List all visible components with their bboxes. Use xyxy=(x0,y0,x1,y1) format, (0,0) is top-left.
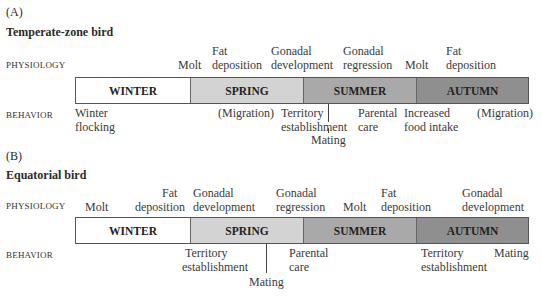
physiology-event: Molt xyxy=(178,44,201,72)
behavior-label: BEHAVIOR xyxy=(6,250,53,260)
physiology-event: Molt xyxy=(343,186,366,214)
behavior-event: Winterflocking xyxy=(75,106,115,134)
panel-letter: (B) xyxy=(6,149,22,164)
behavior-event: Mating xyxy=(249,275,284,289)
season-spring: SPRING xyxy=(190,78,303,103)
season-bar: WINTER SPRING SUMMER AUTUMN xyxy=(75,77,529,104)
behavior-event: Territoryestablishment xyxy=(281,106,347,134)
behavior-label: BEHAVIOR xyxy=(6,110,53,120)
panel-letter: (A) xyxy=(6,5,23,20)
behavior-event: Mating xyxy=(311,133,346,147)
physiology-event: Gonadaldevelopment xyxy=(193,186,255,214)
season-winter: WINTER xyxy=(76,218,190,243)
behavior-event: Parentalcare xyxy=(289,246,328,274)
panel-title: Temperate-zone bird xyxy=(6,25,113,40)
physiology-event: Gonadaldevelopment xyxy=(462,186,524,214)
physiology-event: Fatdeposition xyxy=(212,44,262,72)
season-autumn: AUTUMN xyxy=(416,218,528,243)
physiology-label: PHYSIOLOGY xyxy=(6,201,66,211)
physiology-event: Molt xyxy=(85,186,108,214)
season-bar: WINTER SPRING SUMMER AUTUMN xyxy=(75,217,529,244)
mating-tick xyxy=(266,244,267,273)
behavior-event: Increasedfood intake xyxy=(404,106,458,134)
physiology-event: Fatdeposition xyxy=(381,186,431,214)
behavior-event: Parentalcare xyxy=(358,106,397,134)
season-summer: SUMMER xyxy=(303,218,416,243)
behavior-event: Territoryestablishment xyxy=(421,246,487,274)
mating-tick xyxy=(328,104,329,122)
behavior-event: Territoryestablishment xyxy=(182,246,248,274)
physiology-event: Gonadaldevelopment xyxy=(271,44,333,72)
season-winter: WINTER xyxy=(76,78,190,103)
physiology-event: Molt xyxy=(405,44,428,72)
behavior-event: (Migration) xyxy=(218,106,274,120)
season-summer: SUMMER xyxy=(303,78,416,103)
physiology-label: PHYSIOLOGY xyxy=(6,60,66,70)
panel-title: Equatorial bird xyxy=(6,168,86,183)
physiology-event: Fatdeposition xyxy=(446,44,496,72)
behavior-event: (Migration) xyxy=(477,106,533,120)
physiology-event: Gonadalregression xyxy=(276,186,325,214)
physiology-event: Gonadalregression xyxy=(343,44,392,72)
season-spring: SPRING xyxy=(190,218,303,243)
physiology-event: Fatdeposition xyxy=(135,186,185,214)
season-autumn: AUTUMN xyxy=(416,78,528,103)
behavior-event: Mating xyxy=(494,246,529,260)
